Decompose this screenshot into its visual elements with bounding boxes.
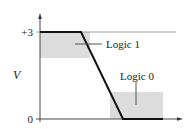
logic-0-label: Logic 0 [120, 70, 154, 82]
tick-label-plus3: +3 [21, 26, 33, 38]
y-axis-label: V [13, 68, 22, 82]
logic-1-label: Logic 1 [106, 38, 140, 50]
x-axis-arrow-icon [177, 117, 183, 121]
logic-0-region [110, 92, 163, 119]
y-axis-arrow-icon [38, 13, 42, 19]
logic-levels-diagram: +3 0 V Logic 1 Logic 0 [0, 0, 186, 129]
tick-label-zero: 0 [28, 113, 34, 125]
